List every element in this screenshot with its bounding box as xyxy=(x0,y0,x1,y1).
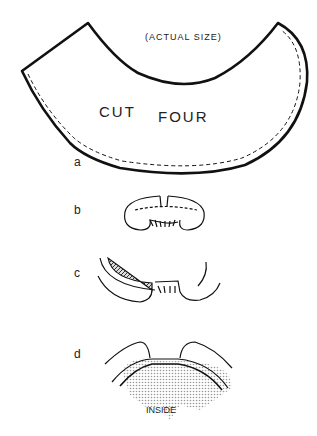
four-instruction: FOUR xyxy=(158,108,209,125)
collar-pattern-piece xyxy=(22,23,307,173)
inside-annotation: INSIDE xyxy=(146,405,176,415)
step-label-d: d xyxy=(74,347,81,361)
collar-diagram xyxy=(0,0,317,436)
cut-instruction: CUT xyxy=(99,103,136,120)
collar-attaching xyxy=(98,258,220,302)
collar-assembled xyxy=(125,196,205,230)
step-label-b: b xyxy=(74,203,81,217)
step-label-a: a xyxy=(74,155,81,169)
step-label-c: c xyxy=(74,266,80,280)
actual-size-note: (ACTUAL SIZE) xyxy=(145,32,222,42)
